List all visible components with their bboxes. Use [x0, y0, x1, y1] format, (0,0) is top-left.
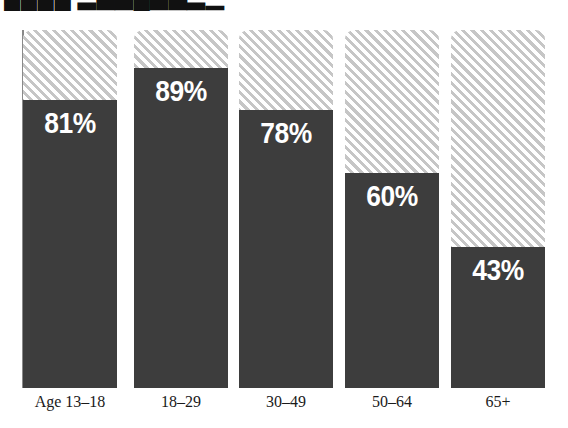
bar-50-64[interactable]: 60% — [345, 30, 439, 388]
bar-value-label: 78% — [245, 116, 328, 150]
bar-fill: 81% — [23, 100, 117, 388]
bar-fill: 43% — [451, 247, 545, 388]
bar-65-plus[interactable]: 43% — [451, 30, 545, 388]
x-tick-label-65-plus: 65+ — [451, 392, 545, 412]
bar-fill: 60% — [345, 173, 439, 388]
x-tick-label-13-18: Age13–18 — [3, 392, 137, 412]
bar-13-18[interactable]: 81% — [23, 30, 117, 388]
bar-30-49[interactable]: 78% — [239, 30, 333, 388]
x-tick-label-30-49: 30–49 — [239, 392, 333, 412]
x-tick-label-50-64: 50–64 — [345, 392, 439, 412]
bar-value-label: 81% — [29, 106, 112, 140]
x-tick-label-18-29: 18–29 — [134, 392, 228, 412]
plot-area: 81% 89% 78% 60% 43% — [0, 0, 568, 428]
bar-value-label: 60% — [351, 179, 434, 213]
chart-figure: ▄▄▄▄ ▂▅▃▄▆▃▂▁ 81% 89% 78% — [0, 0, 568, 428]
x-tick-text: 13–18 — [65, 393, 105, 410]
bar-fill: 78% — [239, 110, 333, 388]
bar-18-29[interactable]: 89% — [134, 30, 228, 388]
bar-value-label: 89% — [140, 74, 223, 108]
bar-value-label: 43% — [457, 253, 540, 287]
bar-fill: 89% — [134, 68, 228, 388]
x-axis-title: Age — [35, 393, 62, 410]
